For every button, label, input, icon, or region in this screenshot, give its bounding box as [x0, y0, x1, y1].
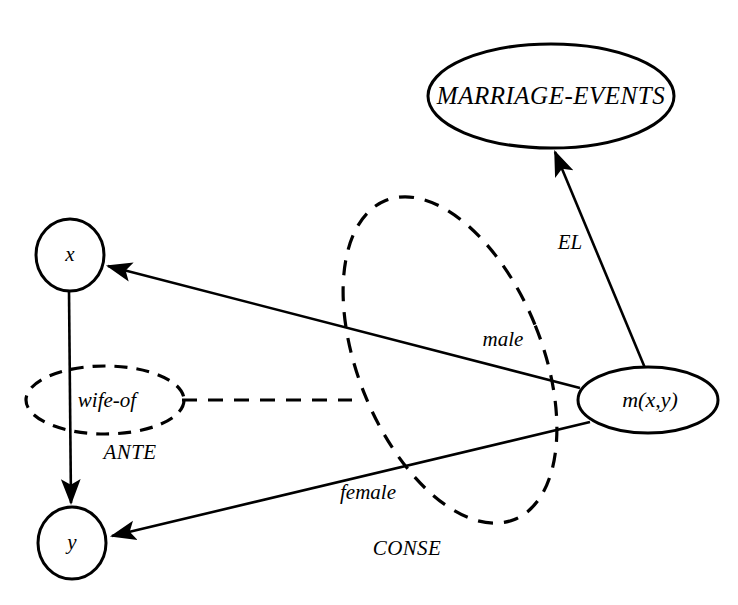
conse-region-outline	[300, 166, 599, 554]
edge-x-to-y	[69, 291, 71, 503]
edge-m-to-marriage-events	[555, 152, 645, 368]
node-wife-of-shape[interactable]	[26, 366, 184, 434]
node-m-xy-shape[interactable]	[578, 367, 718, 433]
edge-m-to-x	[108, 266, 580, 388]
diagram-canvas: MARRIAGE-EVENTS x y m(x,y) wife-of ANTE …	[0, 0, 738, 605]
node-y-shape[interactable]	[38, 507, 106, 579]
node-marriage-events-shape[interactable]	[428, 44, 674, 148]
node-x-shape[interactable]	[36, 219, 104, 291]
diagram-graphics-layer	[0, 0, 738, 605]
